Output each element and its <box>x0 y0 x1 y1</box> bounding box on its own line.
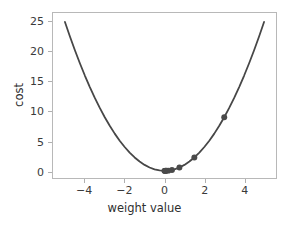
y-axis-label: cost <box>12 83 26 107</box>
x-tick-mark <box>165 179 166 183</box>
descent-point <box>176 165 182 171</box>
y-tick-label: 20 <box>30 46 44 57</box>
x-tick-label: 0 <box>161 185 168 196</box>
y-tick-label: 15 <box>30 76 44 87</box>
y-tick-mark <box>48 111 52 112</box>
x-tick-mark <box>124 179 125 183</box>
gradient-descent-points <box>162 114 228 174</box>
x-axis-label: weight value <box>0 201 289 215</box>
plot-area <box>52 12 277 179</box>
x-tick-mark <box>205 179 206 183</box>
plot-canvas <box>53 13 276 178</box>
y-tick-label: 10 <box>30 106 44 117</box>
y-tick-label: 0 <box>37 166 44 177</box>
cost-curve-figure: cost weight value −4−20240510152025 <box>0 0 289 230</box>
descent-point <box>191 154 197 160</box>
y-tick-label: 5 <box>37 136 44 147</box>
cost-curve-line <box>65 22 264 171</box>
y-tick-mark <box>48 142 52 143</box>
y-tick-mark <box>48 21 52 22</box>
x-tick-label: −2 <box>116 185 132 196</box>
y-tick-mark <box>48 81 52 82</box>
y-tick-mark <box>48 172 52 173</box>
x-tick-mark <box>245 179 246 183</box>
x-tick-label: 4 <box>241 185 248 196</box>
descent-point <box>221 114 227 120</box>
y-tick-mark <box>48 51 52 52</box>
descent-point <box>162 168 168 174</box>
x-tick-label: −4 <box>76 185 92 196</box>
y-tick-label: 25 <box>30 16 44 27</box>
x-tick-label: 2 <box>201 185 208 196</box>
x-tick-mark <box>84 179 85 183</box>
